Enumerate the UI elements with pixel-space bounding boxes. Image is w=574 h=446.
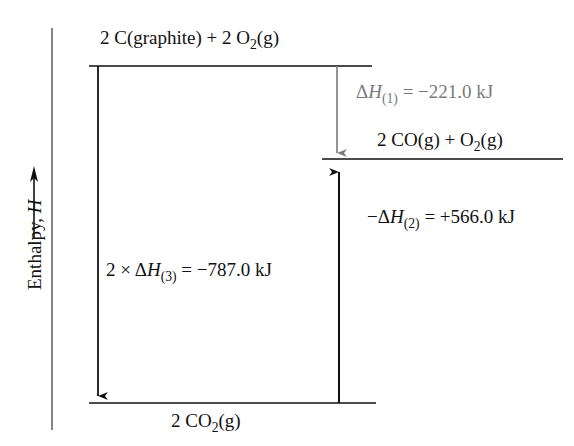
label-symbol: H	[390, 206, 404, 227]
label-subscript: 2	[474, 139, 481, 154]
label-text: = −787.0 kJ	[181, 259, 272, 280]
label-text: 2 CO(g) + O	[377, 129, 474, 150]
label-text: = +566.0 kJ	[424, 206, 515, 227]
label-subscript: (2)	[404, 216, 420, 231]
label-symbol: H	[368, 81, 382, 102]
label-products: 2 CO2(g)	[171, 411, 241, 430]
label-text: = −221.0 kJ	[403, 81, 494, 102]
axis-label-text: Enthalpy,	[24, 213, 45, 290]
label-dh2: −ΔH(2) = +566.0 kJ	[367, 207, 515, 226]
label-dh1: ΔH(1) = −221.0 kJ	[356, 82, 493, 101]
label-reactants: 2 C(graphite) + 2 O2(g)	[100, 28, 279, 47]
label-text: 2 C(graphite) + 2 O	[100, 27, 250, 48]
label-subscript: 2	[250, 37, 257, 52]
label-text: (g)	[481, 129, 503, 150]
enthalpy-axis-label: Enthalpy, H	[24, 199, 46, 290]
label-text: 2 × Δ	[106, 259, 147, 280]
label-text: (g)	[257, 27, 279, 48]
label-text: −Δ	[367, 206, 390, 227]
label-text: 2 CO	[171, 410, 212, 431]
label-subscript: (1)	[382, 91, 398, 106]
label-intermediate: 2 CO(g) + O2(g)	[377, 130, 503, 149]
label-symbol: H	[147, 259, 161, 280]
label-subscript: 2	[212, 420, 219, 435]
label-dh3: 2 × ΔH(3) = −787.0 kJ	[106, 260, 272, 279]
axis-label-symbol: H	[24, 199, 45, 213]
label-subscript: (3)	[161, 269, 177, 284]
label-text: Δ	[356, 81, 368, 102]
label-text: (g)	[219, 410, 241, 431]
